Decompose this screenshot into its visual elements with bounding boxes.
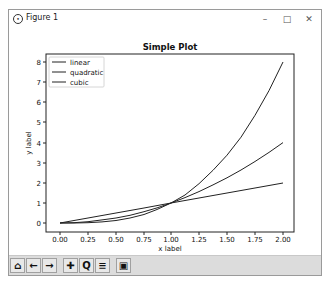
move-icon: ✚ [66,260,74,271]
svg-text:0: 0 [37,220,41,228]
svg-text:5: 5 [37,119,41,127]
arrow-left-icon: ← [29,260,37,271]
svg-text:2: 2 [37,180,41,188]
home-icon: ⌂ [14,260,21,271]
sliders-icon: ≡ [98,260,106,271]
arrow-right-icon: → [45,260,53,271]
figure-window: • Figure 1 – □ ✕ Simple Plot 0 1 2 3 4 5… [8,9,322,276]
plot-canvas[interactable]: Simple Plot 0 1 2 3 4 5 6 7 8 y label 0.… [9,10,323,258]
svg-text:1.75: 1.75 [247,236,263,244]
back-button[interactable]: ← [26,258,41,273]
save-icon: ▣ [119,260,128,271]
svg-text:1: 1 [37,200,41,208]
legend-quadratic: quadratic [70,69,103,77]
configure-subplots-button[interactable]: ≡ [95,258,110,273]
y-axis: 0 1 2 3 4 5 6 7 8 [37,59,46,228]
svg-text:1.25: 1.25 [191,236,207,244]
svg-text:4: 4 [37,140,42,148]
svg-text:0.25: 0.25 [80,236,96,244]
svg-text:8: 8 [37,59,41,67]
legend: linear quadratic cubic [49,57,104,87]
svg-text:1.50: 1.50 [219,236,235,244]
legend-linear: linear [70,59,90,67]
y-axis-label: y label [25,131,33,154]
pan-button[interactable]: ✚ [63,258,78,273]
svg-text:0.50: 0.50 [108,236,124,244]
navigation-toolbar: ⌂ ← → ✚ Q ≡ ▣ [9,255,321,275]
svg-text:0.00: 0.00 [52,236,68,244]
svg-text:1.00: 1.00 [163,236,179,244]
zoom-icon: Q [82,260,91,271]
svg-text:0.75: 0.75 [136,236,152,244]
home-button[interactable]: ⌂ [10,258,25,273]
svg-text:2.00: 2.00 [275,236,291,244]
legend-cubic: cubic [70,79,89,87]
save-button[interactable]: ▣ [116,258,131,273]
x-axis-label: x label [158,245,181,253]
chart-title: Simple Plot [143,42,198,52]
svg-text:6: 6 [37,99,42,107]
zoom-button[interactable]: Q [79,258,94,273]
x-axis: 0.00 0.25 0.50 0.75 1.00 1.25 1.50 1.75 … [52,232,291,244]
forward-button[interactable]: → [42,258,57,273]
svg-text:7: 7 [37,79,41,87]
svg-text:3: 3 [37,160,41,168]
